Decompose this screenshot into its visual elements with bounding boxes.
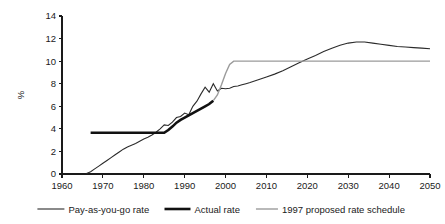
y-tick-label: 10 [45, 56, 56, 67]
chart-legend: Pay-as-you-go rateActual rate1997 propos… [37, 204, 405, 215]
legend-label-1: Actual rate [195, 204, 240, 215]
x-tick-label: 1960 [51, 180, 72, 191]
chart-plot-area: 02468101214 1960197019801990200020102020… [0, 0, 445, 224]
y-tick-label: 4 [51, 123, 56, 134]
chart-container: 02468101214 1960197019801990200020102020… [0, 0, 445, 224]
y-axis: 02468101214 [45, 10, 62, 179]
x-tick-label: 1990 [174, 180, 195, 191]
y-axis-label: % [15, 90, 26, 99]
x-tick-label: 2020 [297, 180, 318, 191]
y-tick-label: 14 [45, 10, 56, 21]
series-line-1 [91, 101, 214, 133]
y-tick-label: 6 [51, 101, 56, 112]
x-axis: 1960197019801990200020102020203020402050 [51, 174, 440, 191]
series-line-2 [213, 61, 430, 101]
legend-label-0: Pay-as-you-go rate [68, 204, 149, 215]
x-tick-label: 2010 [256, 180, 277, 191]
x-tick-label: 2030 [338, 180, 359, 191]
x-tick-label: 1980 [133, 180, 154, 191]
x-tick-label: 2050 [419, 180, 440, 191]
y-axis-title: % [15, 90, 26, 99]
y-tick-label: 2 [51, 146, 56, 157]
y-tick-label: 8 [51, 78, 56, 89]
chart-series-group [87, 42, 430, 173]
x-tick-label: 2000 [215, 180, 236, 191]
y-tick-label: 0 [51, 168, 56, 179]
x-tick-label: 1970 [92, 180, 113, 191]
legend-label-2: 1997 proposed rate schedule [282, 204, 405, 215]
x-tick-label: 2040 [379, 180, 400, 191]
y-tick-label: 12 [45, 33, 56, 44]
